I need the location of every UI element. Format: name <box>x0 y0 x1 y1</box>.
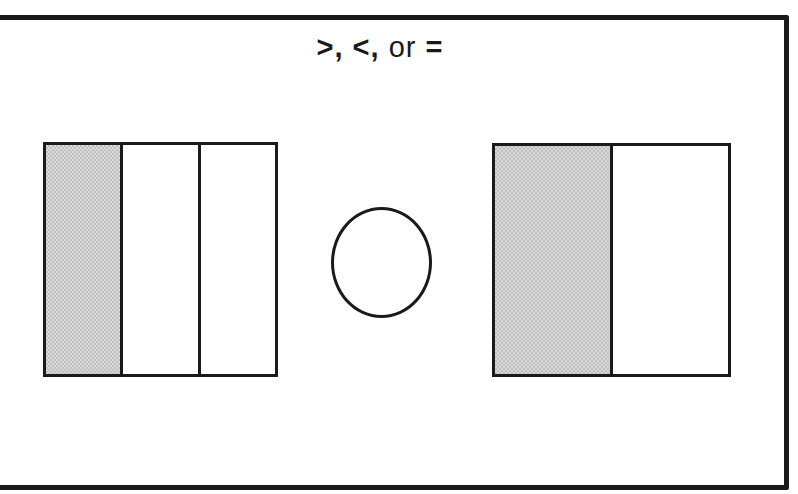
page-title: >, <, or = <box>0 32 760 62</box>
title-part: < <box>353 31 371 63</box>
title-part: > <box>317 31 335 63</box>
right-fraction-model <box>492 143 731 377</box>
shaded-part <box>46 145 120 374</box>
unshaded-part <box>120 145 197 374</box>
title-part: , <box>334 31 352 63</box>
worksheet-page: >, <, or = <box>0 0 798 494</box>
title-part: or <box>389 31 426 63</box>
shaded-part <box>495 146 610 374</box>
unshaded-part <box>610 146 728 374</box>
answer-circle[interactable] <box>331 207 432 318</box>
title-part: = <box>426 31 444 63</box>
left-fraction-model <box>43 142 278 377</box>
title-part: , <box>371 31 389 63</box>
unshaded-part <box>198 145 275 374</box>
